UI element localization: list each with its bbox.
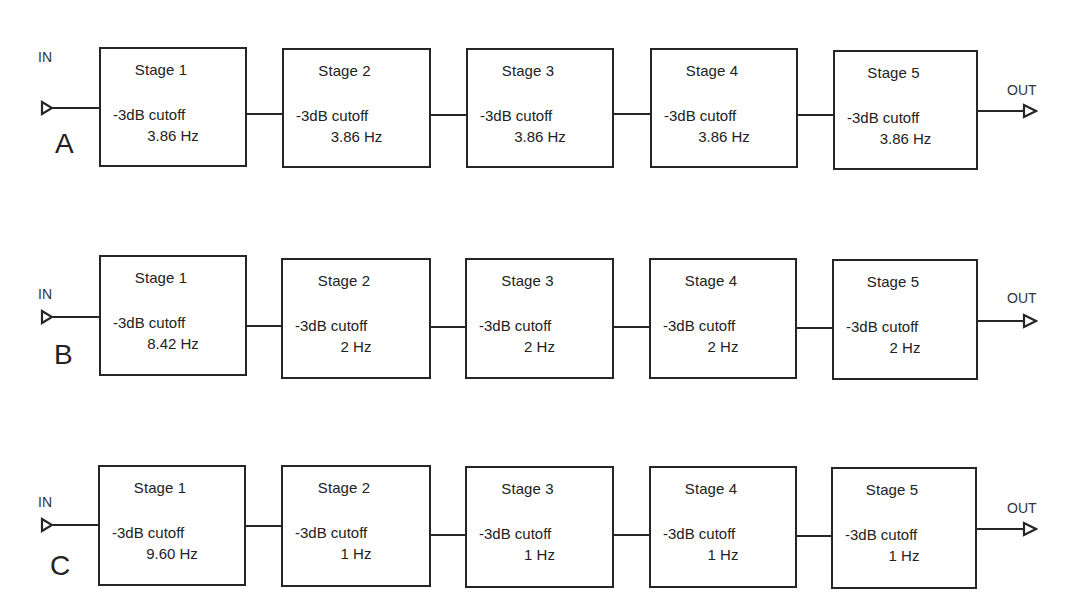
stage-block: Stage 5 -3dB cutoff 1 Hz <box>831 467 977 589</box>
cutoff-label: -3dB cutoff <box>113 314 185 331</box>
row-letter: B <box>54 339 73 371</box>
output-arrow-icon <box>1022 313 1038 329</box>
stage-name: Stage 5 <box>867 273 919 290</box>
cutoff-label: -3dB cutoff <box>480 107 552 124</box>
cutoff-frequency: 3.86 Hz <box>101 127 245 144</box>
output-label: OUT <box>1007 82 1037 98</box>
input-arrow-icon <box>40 517 54 533</box>
cutoff-label: -3dB cutoff <box>113 106 185 123</box>
cutoff-frequency: 3.86 Hz <box>835 130 976 147</box>
output-arrow-icon <box>1022 103 1038 119</box>
cutoff-label: -3dB cutoff <box>663 317 735 334</box>
output-label: OUT <box>1007 500 1037 516</box>
stage-name: Stage 5 <box>866 481 918 498</box>
cutoff-frequency: 3.86 Hz <box>468 128 612 145</box>
filter-chain-c: IN OUT C Stage 1 -3dB cutoff 9.60 Hz Sta… <box>0 458 1081 608</box>
input-label: IN <box>38 49 52 65</box>
stage-name: Stage 1 <box>135 61 187 78</box>
cutoff-label: -3dB cutoff <box>479 317 551 334</box>
filter-chain-b: IN OUT B Stage 1 -3dB cutoff 8.42 Hz Sta… <box>0 248 1081 398</box>
cutoff-label: -3dB cutoff <box>846 318 918 335</box>
cutoff-frequency: 2 Hz <box>467 338 612 355</box>
stage-block: Stage 4 -3dB cutoff 1 Hz <box>649 466 797 588</box>
output-arrow-icon <box>1022 521 1038 537</box>
stage-name: Stage 2 <box>318 272 370 289</box>
stage-name: Stage 3 <box>502 62 554 79</box>
stage-block: Stage 1 -3dB cutoff 8.42 Hz <box>99 255 247 376</box>
cutoff-frequency: 3.86 Hz <box>284 128 429 145</box>
row-letter: A <box>55 128 74 160</box>
cutoff-label: -3dB cutoff <box>295 317 367 334</box>
row-letter: C <box>50 550 70 582</box>
cutoff-frequency: 1 Hz <box>283 545 429 562</box>
stage-block: Stage 4 -3dB cutoff 2 Hz <box>649 258 797 379</box>
cutoff-frequency: 2 Hz <box>283 338 429 355</box>
input-arrow-icon <box>40 100 54 116</box>
stage-block: Stage 5 -3dB cutoff 3.86 Hz <box>833 50 978 170</box>
stage-name: Stage 3 <box>501 272 553 289</box>
cutoff-label: -3dB cutoff <box>479 525 551 542</box>
stage-name: Stage 4 <box>686 62 738 79</box>
cutoff-label: -3dB cutoff <box>112 524 184 541</box>
stage-block: Stage 2 -3dB cutoff 3.86 Hz <box>282 48 431 168</box>
cutoff-frequency: 3.86 Hz <box>652 128 796 145</box>
cutoff-frequency: 1 Hz <box>833 547 975 564</box>
cutoff-label: -3dB cutoff <box>664 107 736 124</box>
input-label: IN <box>38 286 52 302</box>
stage-block: Stage 3 -3dB cutoff 3.86 Hz <box>466 48 614 168</box>
stage-block: Stage 3 -3dB cutoff 1 Hz <box>465 466 614 588</box>
cutoff-frequency: 9.60 Hz <box>100 545 244 562</box>
cutoff-frequency: 2 Hz <box>651 338 795 355</box>
output-label: OUT <box>1007 290 1037 306</box>
stage-block: Stage 2 -3dB cutoff 2 Hz <box>281 258 431 379</box>
stage-name: Stage 2 <box>318 62 370 79</box>
cutoff-frequency: 1 Hz <box>467 546 612 563</box>
stage-name: Stage 1 <box>135 269 187 286</box>
cutoff-frequency: 2 Hz <box>834 339 976 356</box>
stage-block: Stage 2 -3dB cutoff 1 Hz <box>281 465 431 587</box>
stage-block: Stage 1 -3dB cutoff 9.60 Hz <box>98 465 246 586</box>
stage-name: Stage 2 <box>318 479 370 496</box>
input-arrow-icon <box>40 309 54 325</box>
cutoff-frequency: 8.42 Hz <box>101 335 245 352</box>
cutoff-label: -3dB cutoff <box>847 109 919 126</box>
cutoff-label: -3dB cutoff <box>845 526 917 543</box>
cutoff-label: -3dB cutoff <box>663 525 735 542</box>
filter-chain-a: IN OUT A Stage 1 -3dB cutoff 3.86 Hz Sta… <box>0 40 1081 190</box>
input-label: IN <box>38 494 52 510</box>
cutoff-label: -3dB cutoff <box>296 107 368 124</box>
stage-name: Stage 3 <box>501 480 553 497</box>
stage-name: Stage 4 <box>685 272 737 289</box>
stage-name: Stage 4 <box>685 480 737 497</box>
stage-block: Stage 4 -3dB cutoff 3.86 Hz <box>650 48 798 168</box>
cutoff-frequency: 1 Hz <box>651 546 795 563</box>
cutoff-label: -3dB cutoff <box>295 524 367 541</box>
stage-name: Stage 5 <box>867 64 919 81</box>
stage-block: Stage 3 -3dB cutoff 2 Hz <box>465 258 614 379</box>
stage-block: Stage 1 -3dB cutoff 3.86 Hz <box>99 47 247 167</box>
stage-name: Stage 1 <box>134 479 186 496</box>
stage-block: Stage 5 -3dB cutoff 2 Hz <box>832 259 978 380</box>
